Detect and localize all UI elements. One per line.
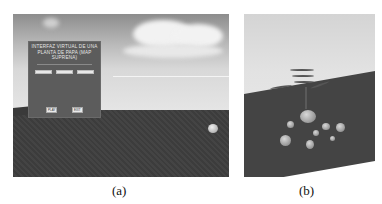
tuber (306, 140, 314, 149)
panel-title-line1: INTERFAZ VIRTUAL DE UNA (29, 44, 100, 50)
interface-panel: INTERFAZ VIRTUAL DE UNA PLANTA DE PAPA (… (28, 41, 101, 118)
input-fields (29, 67, 100, 74)
cloud (43, 18, 59, 28)
field-2 (56, 67, 73, 74)
panel-title: INTERFAZ VIRTUAL DE UNA PLANTA DE PAPA (… (29, 44, 100, 61)
field-1 (35, 67, 52, 74)
exit-button[interactable]: EXIT (72, 107, 83, 113)
figure-a-virtual-scene: INTERFAZ VIRTUAL DE UNA PLANTA DE PAPA (… (13, 14, 229, 177)
leaf (290, 69, 314, 71)
tuber (330, 136, 335, 141)
tuber (336, 123, 345, 132)
tuber (322, 123, 330, 130)
tuber (300, 110, 316, 123)
panel-buttons: PLAY EXIT (29, 107, 100, 113)
field-input[interactable] (56, 70, 73, 74)
field-3 (77, 67, 94, 74)
tuber (280, 135, 291, 146)
caption-b: (b) (299, 183, 314, 199)
leaf (294, 81, 314, 83)
leaf (292, 75, 314, 77)
panel-title-line2: PLANTA DE PAPA (MAP SUPRENA) (29, 50, 100, 61)
field-input[interactable] (35, 70, 52, 74)
field-input[interactable] (77, 70, 94, 74)
horizon-line (113, 76, 229, 77)
caption-a: (a) (112, 183, 126, 199)
play-button[interactable]: PLAY (46, 107, 57, 113)
ground (13, 110, 229, 177)
tuber-sphere (208, 124, 218, 133)
tuber (287, 121, 294, 128)
cloud (123, 44, 223, 58)
figure-b-potato-plant (244, 14, 375, 177)
tuber (313, 130, 319, 136)
plant-stem (305, 87, 307, 109)
divider (37, 64, 92, 65)
